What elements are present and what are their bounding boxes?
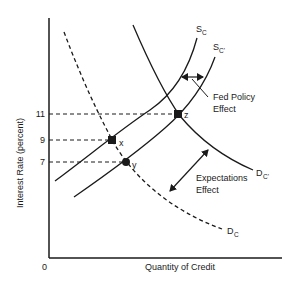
point-z-marker	[174, 110, 182, 118]
origin-label: 0	[42, 262, 47, 272]
label-dc-prime: D C'	[256, 168, 269, 180]
y-tick-9: 9	[40, 135, 45, 145]
fed-policy-leader	[192, 79, 208, 97]
point-x-marker	[108, 136, 116, 144]
demand-curve-dc	[64, 32, 222, 229]
label-dc: D C	[227, 226, 239, 238]
supply-curve-sc-prime	[74, 57, 215, 197]
point-y-label: y	[132, 160, 137, 170]
label-sc-prime: S C'	[213, 42, 225, 54]
credit-market-diagram: Interest Rate (percent) 11 9 7 0 Quantit…	[0, 0, 293, 290]
svg-text:C: C	[202, 29, 207, 36]
svg-text:D: D	[256, 168, 263, 178]
x-axis-label: Quantity of Credit	[145, 262, 216, 272]
fed-policy-label-line2: Effect	[213, 104, 236, 114]
point-z-label: z	[184, 110, 189, 120]
y-axis-label: Interest Rate (percent)	[15, 118, 25, 208]
svg-text:C: C	[234, 231, 239, 238]
point-x-label: x	[119, 138, 124, 148]
y-tick-7: 7	[40, 157, 45, 167]
expectations-label-line1: Expectations	[196, 173, 248, 183]
label-sc: S C	[196, 24, 207, 36]
svg-text:C': C'	[219, 47, 225, 54]
fed-policy-label-line1: Fed Policy	[213, 92, 256, 102]
svg-text:D: D	[227, 226, 234, 236]
expectations-label-line2: Effect	[196, 185, 219, 195]
svg-text:C': C'	[263, 173, 269, 180]
point-y-marker	[122, 158, 130, 166]
y-tick-11: 11	[36, 109, 45, 119]
